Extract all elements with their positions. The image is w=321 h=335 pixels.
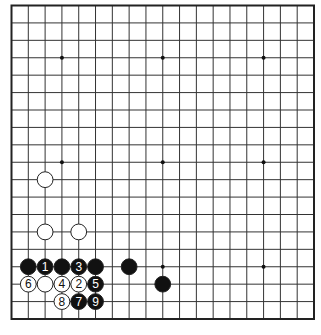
black-stone: 5 [88, 276, 104, 292]
white-stone [37, 224, 53, 240]
black-stone: 7 [71, 294, 87, 310]
white-stone: 6 [20, 276, 36, 292]
star-point [161, 160, 165, 164]
stone-disc [54, 259, 70, 275]
white-stone: 4 [54, 276, 70, 292]
star-point [161, 265, 165, 269]
move-number-label: 9 [92, 295, 99, 309]
star-point [262, 160, 266, 164]
star-point [60, 56, 64, 60]
star-point [60, 160, 64, 164]
stone-disc [20, 259, 36, 275]
white-stone: 2 [71, 276, 87, 292]
move-number-label: 8 [59, 295, 66, 309]
black-stone [20, 259, 36, 275]
stone-disc [37, 172, 53, 188]
star-point [161, 56, 165, 60]
white-stone [71, 224, 87, 240]
star-point [262, 56, 266, 60]
black-stone [54, 259, 70, 275]
stone-disc [88, 259, 104, 275]
black-stone: 9 [88, 294, 104, 310]
move-number-label: 3 [75, 260, 82, 274]
white-stone [37, 172, 53, 188]
move-number-label: 1 [42, 260, 49, 274]
black-stone: 1 [37, 259, 53, 275]
black-stone [155, 276, 171, 292]
star-point [262, 265, 266, 269]
stone-disc [37, 276, 53, 292]
black-stone [88, 259, 104, 275]
go-board: 136425879 [0, 0, 321, 335]
black-stone [121, 259, 137, 275]
white-stone: 8 [54, 294, 70, 310]
move-number-label: 5 [92, 277, 99, 291]
move-number-label: 7 [75, 295, 82, 309]
stone-disc [71, 224, 87, 240]
move-number-label: 2 [75, 277, 82, 291]
stone-disc [37, 224, 53, 240]
black-stone: 3 [71, 259, 87, 275]
stone-disc [121, 259, 137, 275]
white-stone [37, 276, 53, 292]
move-number-label: 4 [59, 277, 66, 291]
move-number-label: 6 [25, 277, 32, 291]
stone-disc [155, 276, 171, 292]
